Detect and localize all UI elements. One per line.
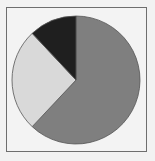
pie-chart [0,0,155,161]
pie-slices [12,16,140,144]
